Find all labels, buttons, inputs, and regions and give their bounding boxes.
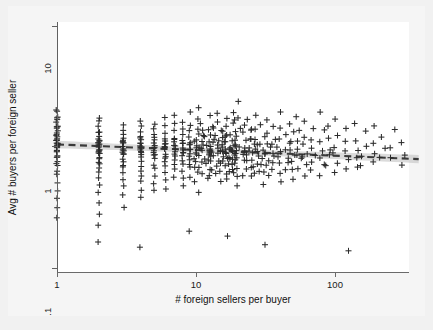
- y-axis-line: [57, 22, 58, 272]
- scatter-markers: [53, 98, 408, 253]
- y-tick-mark-0.1: [52, 268, 57, 269]
- y-axis-title: Avg # buyers per foreign seller: [8, 79, 19, 214]
- y-tick-mark-1: [52, 146, 57, 147]
- x-axis-line: [57, 272, 409, 273]
- x-tick-mark-100: [335, 272, 336, 277]
- x-tick-label-10: 10: [176, 280, 216, 290]
- y-tick-mark-10: [52, 26, 57, 27]
- figure-scatter-plot: 10 1 .1 1 10 100 Avg # buyers per foreig…: [0, 0, 433, 330]
- y-tick-label-0.1: .1: [43, 268, 53, 316]
- y-tick-label-1: 1: [43, 146, 53, 194]
- y-axis-title-wrap: Avg # buyers per foreign seller: [6, 22, 20, 272]
- x-tick-mark-1: [57, 272, 58, 277]
- x-tick-mark-10: [196, 272, 197, 277]
- x-tick-label-1: 1: [37, 280, 77, 290]
- x-tick-label-100: 100: [315, 280, 355, 290]
- x-axis-title: # foreign sellers per buyer: [57, 294, 409, 305]
- y-tick-label-10: 10: [43, 26, 53, 74]
